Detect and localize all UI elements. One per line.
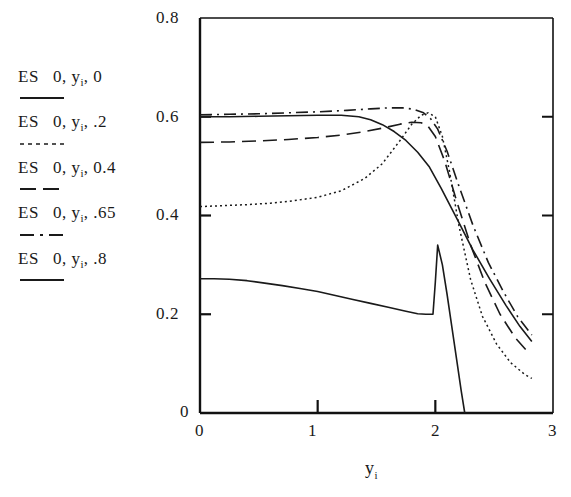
curve-0 <box>200 245 465 413</box>
curve-4 <box>200 115 532 341</box>
plot-area <box>0 0 571 497</box>
axis-frame <box>200 18 553 413</box>
data-curves <box>200 108 532 413</box>
chart-figure: ES 0, yi, 0 ES 0, yi, .2 ES <box>0 0 571 497</box>
curve-2 <box>200 122 529 354</box>
axis-ticks <box>200 117 553 413</box>
